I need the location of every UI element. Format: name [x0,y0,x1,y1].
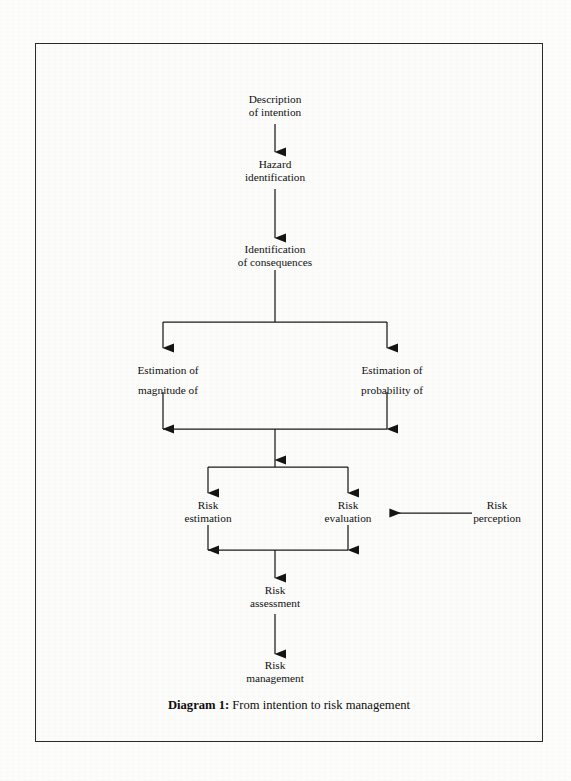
node-risk-assessment: Risk assessment [250,584,300,610]
node-consequences-line2: of consequences [238,256,312,269]
node-description-line2: of intention [249,106,302,119]
node-magnitude: Estimation of magnitude of [137,360,198,400]
node-risk-estimation-line1: Risk [184,499,231,512]
figure-caption: Diagram 1: From intention to risk manage… [168,698,410,713]
node-risk-evaluation: Risk evaluation [324,499,371,525]
node-risk-estimation-line2: estimation [184,512,231,525]
node-magnitude-line1: Estimation of [137,360,198,380]
node-risk-estimation: Risk estimation [184,499,231,525]
node-risk-perception-line2: perception [473,512,521,525]
figure-caption-text: From intention to risk management [232,698,410,712]
node-hazard: Hazard identification [245,158,305,184]
node-probability-line2: probability of [361,380,423,400]
node-risk-evaluation-line2: evaluation [324,512,371,525]
node-description-line1: Description [249,93,302,106]
node-risk-evaluation-line1: Risk [324,499,371,512]
node-hazard-line2: identification [245,171,305,184]
node-probability-line1: Estimation of [361,360,423,380]
node-risk-management-line2: management [246,672,304,685]
node-risk-assessment-line2: assessment [250,597,300,610]
node-risk-management: Risk management [246,659,304,685]
node-risk-assessment-line1: Risk [250,584,300,597]
figure-page: Description of intention Hazard identifi… [0,0,571,781]
node-hazard-line1: Hazard [245,158,305,171]
node-risk-perception: Risk perception [473,499,521,525]
node-description: Description of intention [249,93,302,119]
node-consequences: Identification of consequences [238,243,312,269]
node-magnitude-line2: magnitude of [137,380,198,400]
node-probability: Estimation of probability of [361,360,423,400]
node-risk-management-line1: Risk [246,659,304,672]
figure-caption-label: Diagram 1: [168,698,229,712]
node-consequences-line1: Identification [238,243,312,256]
node-risk-perception-line1: Risk [473,499,521,512]
